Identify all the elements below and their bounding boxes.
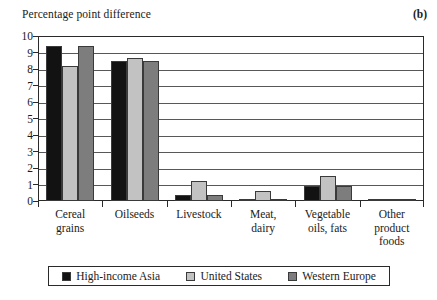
chart-legend: High-income AsiaUnited StatesWestern Eur… [48,266,390,286]
x-axis-category-label-line: foods [360,235,424,249]
bar-group [111,36,159,201]
x-axis-tick-mark [295,201,296,207]
x-axis-tick-mark [102,201,103,207]
x-axis-category-label-line: Cereal [38,208,102,222]
x-axis-tick-mark [231,201,232,207]
x-axis-category-label-line: grains [38,222,102,236]
legend-item[interactable]: United States [186,270,262,282]
bar [46,46,62,201]
bar [127,58,143,201]
bar-group [239,36,287,201]
y-axis-tick-marks [0,36,38,201]
x-axis-category-label-line: oils, fats [295,222,359,236]
figure-panel-b: Percentage point difference (b) 01234567… [0,0,437,300]
legend-item[interactable]: Western Europe [288,270,375,282]
bar [78,46,94,201]
legend-swatch-icon [62,272,71,281]
bar-groups [38,36,424,201]
bar-group [46,36,94,201]
bar [336,186,352,201]
bar-group [175,36,223,201]
x-axis-category-label-line: Livestock [167,208,231,222]
x-axis-category-label-line: product [360,222,424,236]
x-axis-category-label: Oilseeds [102,208,166,222]
legend-item-label: United States [200,270,262,282]
legend-swatch-icon [288,272,297,281]
bar [111,61,127,201]
bar [320,176,336,201]
x-axis-tick-marks [38,201,424,207]
bar-group [368,36,416,201]
x-axis-category-label: Livestock [167,208,231,222]
legend-item-label: High-income Asia [76,270,160,282]
x-axis-category-label: Meat,dairy [231,208,295,235]
x-axis-category-label-line: Other [360,208,424,222]
bar [255,191,271,201]
x-axis-tick-mark [423,201,424,207]
x-axis-category-label-line: dairy [231,222,295,236]
bar-group [304,36,352,201]
x-axis-category-label-line: Meat, [231,208,295,222]
bar [62,66,78,201]
legend-item-label: Western Europe [302,270,375,282]
legend-swatch-icon [186,272,195,281]
x-axis-tick-mark [38,201,39,207]
x-axis-category-label: Vegetableoils, fats [295,208,359,235]
x-axis-category-label: Cerealgrains [38,208,102,235]
x-axis-category-label-line: Oilseeds [102,208,166,222]
y-axis-title: Percentage point difference [22,8,151,20]
x-axis-category-label-line: Vegetable [295,208,359,222]
x-axis-category-labels: CerealgrainsOilseedsLivestockMeat,dairyV… [38,208,424,260]
x-axis-tick-mark [167,201,168,207]
panel-label: (b) [413,8,427,20]
bar [143,61,159,201]
legend-item[interactable]: High-income Asia [62,270,160,282]
x-axis-category-label: Otherproductfoods [360,208,424,249]
x-axis-tick-mark [360,201,361,207]
bar [191,181,207,201]
bar [304,186,320,201]
